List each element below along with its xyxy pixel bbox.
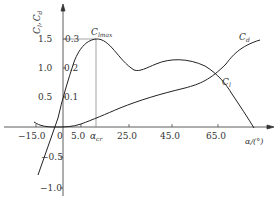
cmax-guides — [63, 39, 96, 127]
y-axis-arrow-icon — [61, 4, 65, 11]
lift-drag-chart: 1.5 1.0 0.5 −0.5 −1.0 0.3 0.2 0.1 −15.0 … — [0, 0, 280, 203]
y-axis-label: Cl,Cd — [32, 10, 43, 34]
xtick-25: 25.0 — [117, 131, 137, 141]
ytick-0.5: 0.5 — [38, 92, 53, 102]
ytick-1.0: 1.0 — [38, 63, 53, 73]
xtick-5: 5.0 — [71, 131, 86, 141]
ytick-cd-0.2: 0.2 — [64, 63, 78, 73]
cl-curve-label: Cl — [222, 77, 231, 88]
ytick-neg-1.0: −1.0 — [40, 183, 62, 193]
xtick-neg-15: −15.0 — [18, 131, 46, 141]
cmax-label: Clmax — [91, 27, 113, 38]
cd-curve-label: Cd — [239, 32, 250, 43]
ytick-cd-0.1: 0.1 — [64, 92, 78, 102]
ytick-1.5: 1.5 — [38, 34, 53, 44]
xtick-0: 0 — [57, 131, 63, 141]
svg-text:Cl,Cd: Cl,Cd — [32, 10, 43, 34]
ytick-cd-0.3: 0.3 — [65, 34, 80, 44]
x-axis-arrow-icon — [267, 125, 274, 129]
ytick-neg-0.5: −0.5 — [41, 152, 63, 162]
xtick-45: 45.0 — [160, 131, 180, 141]
cl-curve — [38, 39, 254, 175]
xtick-65: 65.0 — [206, 131, 226, 141]
alpha-cr-label: αcr — [90, 131, 103, 142]
x-axis-label: α/(°) — [245, 137, 263, 146]
